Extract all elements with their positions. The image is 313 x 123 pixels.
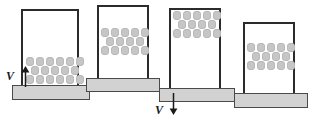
particle	[126, 37, 134, 45]
particle	[136, 37, 144, 45]
particle	[272, 52, 280, 60]
particle-row	[247, 52, 295, 61]
particle	[277, 43, 285, 51]
particle	[193, 11, 201, 19]
particle	[121, 28, 129, 36]
particle	[247, 61, 255, 69]
particle	[193, 29, 201, 37]
particle	[121, 46, 129, 54]
particle	[46, 75, 54, 83]
vibrating-base-plate	[234, 93, 308, 108]
particle	[287, 61, 295, 69]
particle	[203, 29, 211, 37]
particle	[173, 11, 181, 19]
particle	[213, 29, 221, 37]
particle	[141, 28, 149, 36]
particle	[46, 57, 54, 65]
particle	[213, 11, 221, 19]
particle	[76, 57, 84, 65]
particle	[61, 66, 69, 74]
particle	[36, 57, 44, 65]
particle	[111, 46, 119, 54]
particle	[101, 28, 109, 36]
particle	[198, 20, 206, 28]
particle-row	[247, 61, 295, 70]
particle	[203, 11, 211, 19]
velocity-label: V	[6, 70, 14, 82]
particle	[262, 52, 270, 60]
panel-flight-bed-midway	[0, 0, 313, 123]
particle-row	[173, 29, 221, 38]
particle-row	[26, 66, 84, 75]
figure-root: VV	[0, 0, 313, 123]
particle	[131, 28, 139, 36]
particle	[257, 61, 265, 69]
particle-row	[247, 43, 295, 52]
particle	[31, 66, 39, 74]
particle	[173, 29, 181, 37]
vessel-container	[21, 9, 79, 85]
particle	[26, 75, 34, 83]
particle	[282, 52, 290, 60]
particle	[66, 75, 74, 83]
particle	[111, 28, 119, 36]
velocity-arrow-up-icon	[20, 66, 31, 88]
panel-recontact-bed-midlow	[0, 0, 313, 123]
particle-row	[26, 75, 84, 84]
particle-bed	[247, 43, 295, 70]
particle	[252, 52, 260, 60]
particle	[257, 43, 265, 51]
particle	[183, 11, 191, 19]
vessel-container	[243, 22, 295, 93]
particle	[76, 75, 84, 83]
particle-row	[26, 57, 84, 66]
particle	[247, 43, 255, 51]
particle	[26, 57, 34, 65]
particle	[71, 66, 79, 74]
vibrating-base-plate	[86, 78, 160, 92]
particle	[141, 46, 149, 54]
vessel-container	[169, 8, 221, 88]
vessel-container	[97, 5, 149, 78]
particle-row	[101, 37, 149, 46]
particle	[66, 57, 74, 65]
particle	[116, 37, 124, 45]
particle	[267, 43, 275, 51]
particle	[267, 61, 275, 69]
particle	[188, 20, 196, 28]
particle-bed	[101, 28, 149, 55]
particle	[56, 57, 64, 65]
particle-row	[173, 20, 221, 29]
panel-upstroke-bed-at-base: V	[0, 0, 313, 123]
panel-downstroke-bed-at-top: V	[0, 0, 313, 123]
particle-bed	[26, 57, 84, 84]
particle	[51, 66, 59, 74]
particle	[208, 20, 216, 28]
particle	[56, 75, 64, 83]
velocity-arrow-down-icon	[168, 92, 179, 116]
vibrating-base-plate	[159, 88, 235, 102]
particle-row	[173, 11, 221, 20]
vibrating-base-plate	[12, 85, 90, 100]
particle	[287, 43, 295, 51]
particle	[178, 20, 186, 28]
particle-row	[101, 28, 149, 37]
particle	[101, 46, 109, 54]
particle	[106, 37, 114, 45]
particle	[41, 66, 49, 74]
particle	[131, 46, 139, 54]
particle	[36, 75, 44, 83]
particle-row	[101, 46, 149, 55]
particle	[277, 61, 285, 69]
velocity-label: V	[155, 104, 163, 116]
particle	[183, 29, 191, 37]
particle-bed	[173, 11, 221, 38]
